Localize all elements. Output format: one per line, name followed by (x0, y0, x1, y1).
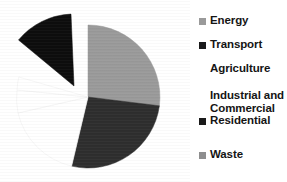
legend-label-residential: Residential (210, 114, 270, 126)
legend-swatch-transport-icon (199, 42, 206, 49)
legend-label-transport: Transport (210, 38, 262, 50)
legend-label-waste: Waste (210, 148, 243, 160)
pie-plot-area (0, 0, 190, 182)
legend-swatch-energy-icon (199, 18, 206, 25)
legend-label-energy: Energy (210, 14, 248, 26)
legend-swatch-industrial-and-commercial-icon (199, 93, 206, 100)
chart-legend: Energy Transport Agriculture Industrial … (196, 0, 287, 182)
pie-chart (0, 0, 190, 182)
legend-swatch-waste-icon (199, 152, 206, 159)
pie-slice-transport[interactable] (19, 14, 75, 86)
chart-figure: Energy Transport Agriculture Industrial … (0, 0, 287, 182)
pie-slice-transport-group (19, 14, 75, 86)
legend-label-industrial-and-commercial: Industrial and Commercial (210, 89, 287, 114)
pie-slice-energy[interactable] (88, 25, 160, 106)
legend-label-agriculture: Agriculture (210, 62, 270, 74)
legend-swatch-agriculture-icon (199, 66, 206, 73)
legend-swatch-residential-icon (199, 118, 206, 125)
